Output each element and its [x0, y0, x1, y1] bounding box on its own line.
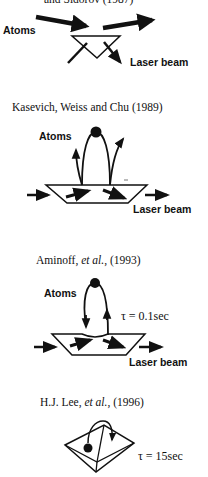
laser-out — [104, 42, 120, 62]
laser-in — [68, 43, 87, 63]
prism — [46, 185, 147, 203]
panel-3-tau-label: τ = 0.1sec — [121, 309, 169, 324]
title-suffix: , (1993) — [104, 254, 140, 266]
atom-ball — [84, 444, 93, 453]
panel-2-atoms-label: Atoms — [39, 130, 72, 142]
lee-diagram — [65, 421, 134, 472]
panel-4-tau-label: τ = 15sec — [138, 449, 183, 464]
panel-3-atoms-label: Atoms — [44, 287, 77, 299]
title-italic: et al. — [81, 254, 104, 266]
panel-1-title: and Sidorov (1987) — [44, 0, 133, 5]
panel-3-laser-label: Laser beam — [129, 356, 187, 368]
panel-2-title: Kasevich, Weiss and Chu (1989) — [12, 101, 163, 113]
title-suffix: , (1996) — [107, 396, 143, 408]
panel-4-title: H.J. Lee, et al., (1996) — [40, 396, 144, 408]
prism — [52, 334, 145, 355]
panel-2-laser-label: Laser beam — [133, 203, 191, 215]
title-italic: et al. — [84, 396, 107, 408]
reflected-atom-arrow — [103, 20, 152, 28]
panel-3-title: Aminoff, et al., (1993) — [36, 254, 141, 266]
panel-1-laser-label: Laser beam — [130, 56, 188, 68]
incoming-atom-arrow — [36, 17, 86, 26]
panel-1-atoms-label: Atoms — [3, 24, 36, 36]
title-prefix: Aminoff, — [36, 254, 81, 266]
title-prefix: H.J. Lee, — [40, 396, 84, 408]
